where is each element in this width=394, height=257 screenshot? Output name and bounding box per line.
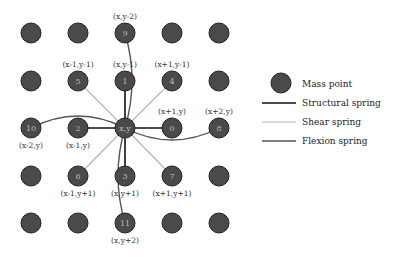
mass-point — [209, 71, 229, 91]
mass-point — [162, 23, 182, 43]
legend-flexion-label: Flexion spring — [302, 136, 368, 146]
legend: Mass point Structural spring Shear sprin… — [262, 73, 381, 146]
mass-point — [21, 23, 41, 43]
node-coord-label: (x-2,y) — [19, 141, 43, 150]
node-id-label: 2 — [75, 124, 80, 133]
node-id-label: 1 — [122, 77, 127, 86]
node-coord-label: (x+1,y+1) — [153, 189, 192, 198]
node-id-label: x,y — [119, 124, 131, 133]
legend-structural-label: Structural spring — [302, 98, 381, 108]
legend-mass-point-icon — [271, 73, 291, 93]
mass-point — [162, 213, 182, 233]
node-coord-label: (x,y+2) — [111, 236, 139, 245]
node-id-label: 9 — [122, 29, 127, 38]
mass-point — [68, 23, 88, 43]
node-coord-label: (x,y+1) — [111, 189, 139, 198]
legend-shear-label: Shear spring — [302, 117, 361, 127]
legend-mass-point-label: Mass point — [302, 79, 353, 89]
node-coord-label: (x-1,y-1) — [62, 60, 93, 69]
node-id-label: 7 — [169, 172, 174, 181]
node-id-label: 0 — [169, 124, 174, 133]
mass-point — [209, 166, 229, 186]
node-id-label: 8 — [216, 124, 221, 133]
mass-point — [21, 166, 41, 186]
mass-point — [21, 71, 41, 91]
mass-spring-diagram: 9(x,y-2)5(x-1,y-1)1(x,y-1)4(x+1,y-1)10(x… — [0, 0, 394, 257]
node-id-label: 11 — [120, 219, 130, 228]
node-id-label: 6 — [75, 172, 80, 181]
node-id-label: 10 — [26, 124, 36, 133]
node-coord-label: (x+1,y) — [158, 107, 186, 116]
node-coord-label: (x,y-1) — [113, 60, 137, 69]
node-id-label: 4 — [169, 77, 174, 86]
node-coord-label: (x-1,y) — [66, 141, 90, 150]
node-id-label: 3 — [122, 172, 127, 181]
mass-point — [209, 23, 229, 43]
mass-point — [21, 213, 41, 233]
node-coord-label: (x-1,y+1) — [61, 189, 96, 198]
mass-point — [209, 213, 229, 233]
mass-point — [68, 213, 88, 233]
node-coord-label: (x+1,y-1) — [154, 60, 189, 69]
node-coord-label: (x+2,y) — [205, 107, 233, 116]
node-id-label: 5 — [75, 77, 80, 86]
node-coord-label: (x,y-2) — [113, 12, 137, 21]
nodes-layer: 9(x,y-2)5(x-1,y-1)1(x,y-1)4(x+1,y-1)10(x… — [19, 12, 233, 245]
